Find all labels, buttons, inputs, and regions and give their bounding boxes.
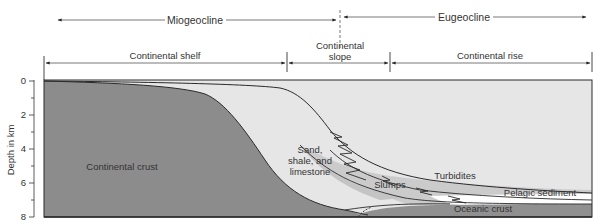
continental-slope-label-line2: slope [329,51,352,62]
tick-6: 6 [21,177,26,188]
continental-margin-diagram: Miogeocline Eugeocline Continental shelf… [0,0,598,222]
depth-axis: 0 2 4 6 8 Depth in km [5,75,34,222]
sediments-label-line1: Sand, [298,144,323,155]
depth-axis-label: Depth in km [5,125,16,176]
sediments-label-line3: limestone [290,166,331,177]
tick-8: 8 [21,211,26,222]
pelagic-sediment-label: Pelagic sediment [504,187,577,198]
tick-4: 4 [21,143,26,154]
slumps-label: Slumps [374,179,406,190]
eugeocline-label: Eugeocline [438,11,490,23]
continental-shelf-label: Continental shelf [130,50,201,61]
tick-2: 2 [21,109,26,120]
eugeocline-span: Eugeocline [344,11,586,23]
continental-rise-label: Continental rise [457,50,523,61]
turbidites-label: Turbidites [434,170,476,181]
continental-crust-label: Continental crust [86,161,158,172]
miogeocline-span: Miogeocline [58,14,336,26]
sediments-label-line2: shale, and [288,155,332,166]
oceanic-crust-label: Oceanic crust [454,203,512,214]
continental-slope-label-line1: Continental [316,40,364,51]
tick-0: 0 [21,75,26,86]
miogeocline-label: Miogeocline [167,14,223,26]
